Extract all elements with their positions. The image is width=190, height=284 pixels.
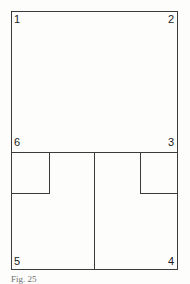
reference-label-1: 1 [14,14,20,25]
left-inner-rect-outline [12,153,50,194]
right-inner-rect-outline [141,153,178,194]
technical-figure: 1 2 6 3 5 4 Fig. 25 [0,0,190,284]
figure-line-art [0,0,190,284]
figure-caption: Fig. 25 [11,274,37,284]
reference-label-2: 2 [168,14,174,25]
reference-label-5: 5 [14,256,20,267]
reference-label-3: 3 [168,137,174,148]
reference-label-6: 6 [14,137,20,148]
reference-label-4: 4 [168,256,174,267]
